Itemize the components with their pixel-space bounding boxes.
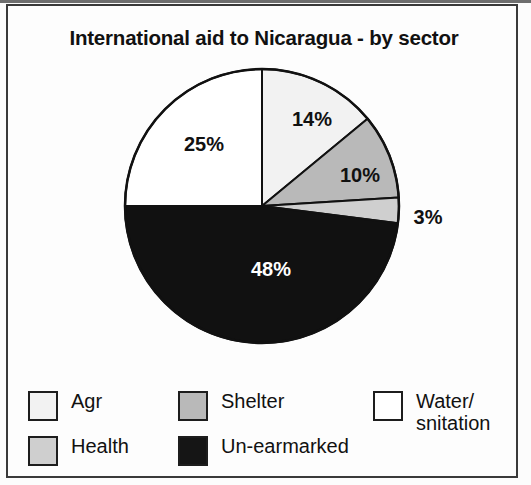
legend-item[interactable]: Water/ snitation [373, 390, 491, 434]
legend-item[interactable]: Health [28, 435, 129, 466]
legend-item-label: Agr [71, 390, 102, 412]
legend-item-label: Shelter [221, 390, 284, 412]
legend-item[interactable]: Shelter [178, 390, 284, 421]
pie-chart: 14%10%3%48%25% [8, 6, 520, 366]
scan-top-rule [0, 0, 531, 3]
chart-legend: AgrShelterWater/ snitationHealthUn-earma… [28, 390, 508, 476]
legend-item[interactable]: Un-earmarked [178, 435, 349, 466]
pie-slice-value-label: 14% [292, 108, 332, 131]
legend-swatch-icon [28, 391, 58, 421]
legend-swatch-icon [178, 391, 208, 421]
legend-item-label: Un-earmarked [221, 435, 349, 457]
legend-item-label: Water/ snitation [416, 390, 491, 434]
legend-item[interactable]: Agr [28, 390, 102, 421]
pie-slice-value-label: 3% [414, 206, 443, 229]
pie-slice-value-label: 48% [251, 258, 291, 281]
legend-swatch-icon [28, 436, 58, 466]
legend-swatch-icon [373, 391, 403, 421]
legend-item-label: Health [71, 435, 129, 457]
pie-slice-value-label: 10% [340, 164, 380, 187]
pie-slice-value-label: 25% [184, 133, 224, 156]
pie-svg [8, 6, 520, 366]
legend-swatch-icon [178, 436, 208, 466]
figure-page: International aid to Nicaragua - by sect… [0, 0, 531, 485]
figure-frame: International aid to Nicaragua - by sect… [6, 4, 518, 478]
